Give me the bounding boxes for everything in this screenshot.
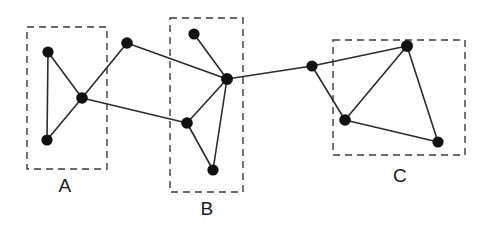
graph-canvas: ABC [0,0,484,241]
graph-node [41,134,52,145]
graph-edge [227,66,312,79]
graph-node [121,37,133,49]
graph-edge [48,52,82,98]
cluster-label-c: C [393,165,407,186]
graph-edge [82,43,127,98]
graph-node [221,73,233,85]
graph-edge [345,120,438,142]
graph-edge [127,43,227,79]
graph-node [339,114,351,126]
graph-node [306,60,317,71]
graph-edge [82,98,187,123]
graph-edge [312,66,345,120]
cluster-box-b [170,18,243,192]
graph-node [42,46,53,57]
cluster-label-a: A [58,175,71,196]
cluster-label-b: B [200,198,213,219]
graph-edge [47,98,82,140]
graph-node [181,117,193,129]
graph-node [188,28,199,39]
graph-node [432,136,443,147]
graph-figure: ABC [0,0,484,241]
graph-node [207,164,218,175]
graph-node [76,92,88,104]
graph-edge [47,52,48,140]
cluster-box-a [27,27,107,169]
graph-node [401,40,413,52]
graph-edge [187,123,213,170]
graph-edge [407,46,438,142]
